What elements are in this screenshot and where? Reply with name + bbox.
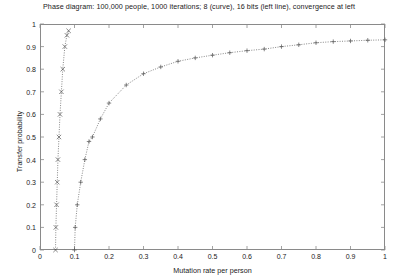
y-tick-label: 0 bbox=[32, 247, 36, 254]
data-point-marker bbox=[141, 72, 145, 76]
y-tick-label: 0.7 bbox=[26, 88, 36, 95]
chart-title: Phase diagram: 100,000 people, 1000 iter… bbox=[0, 2, 398, 11]
y-tick-label: 0.4 bbox=[26, 156, 36, 163]
data-point-marker bbox=[57, 135, 61, 139]
data-point-marker bbox=[348, 39, 352, 43]
y-tick-label: 1 bbox=[32, 21, 36, 28]
y-tick-label: 0.9 bbox=[26, 43, 36, 50]
x-axis-tick-labels: 00.10.20.30.40.50.60.70.80.91 bbox=[40, 253, 385, 265]
y-tick-label: 0.6 bbox=[26, 111, 36, 118]
y-tick-label: 0.5 bbox=[26, 134, 36, 141]
x-tick-label: 0 bbox=[38, 253, 42, 260]
data-point-marker bbox=[55, 180, 59, 184]
data-point-marker bbox=[159, 65, 163, 69]
data-point-marker bbox=[228, 51, 232, 55]
data-point-marker bbox=[279, 44, 283, 48]
x-tick-label: 0.4 bbox=[173, 253, 183, 260]
data-point-marker bbox=[75, 203, 79, 207]
data-point-marker bbox=[297, 43, 301, 47]
x-tick-label: 0.9 bbox=[346, 253, 356, 260]
y-axis-tick-labels: 00.10.20.30.40.50.60.70.80.91 bbox=[0, 24, 36, 250]
x-tick-label: 0.5 bbox=[208, 253, 218, 260]
data-point-marker bbox=[79, 180, 83, 184]
data-point-marker bbox=[72, 248, 76, 252]
plot-svg bbox=[40, 24, 385, 250]
plot-area bbox=[40, 24, 385, 250]
data-point-marker bbox=[73, 225, 77, 229]
data-point-marker bbox=[98, 117, 102, 121]
x-axis-label: Mutation rate per person bbox=[40, 266, 385, 275]
y-tick-label: 0.3 bbox=[26, 179, 36, 186]
data-point-marker bbox=[66, 29, 70, 33]
x-tick-label: 0.8 bbox=[311, 253, 321, 260]
y-tick-label: 0.1 bbox=[26, 224, 36, 231]
data-point-marker bbox=[87, 139, 91, 143]
data-series bbox=[53, 29, 71, 253]
y-tick-label: 0.2 bbox=[26, 201, 36, 208]
data-point-marker bbox=[245, 48, 249, 52]
x-tick-label: 0.7 bbox=[277, 253, 287, 260]
x-tick-label: 0.3 bbox=[139, 253, 149, 260]
data-point-marker bbox=[331, 39, 335, 43]
data-series bbox=[72, 38, 387, 253]
data-point-marker bbox=[53, 248, 57, 252]
data-point-marker bbox=[193, 56, 197, 60]
data-point-marker bbox=[314, 41, 318, 45]
data-point-marker bbox=[176, 59, 180, 63]
chart-figure: Phase diagram: 100,000 people, 1000 iter… bbox=[0, 0, 398, 280]
x-tick-label: 1 bbox=[383, 253, 387, 260]
data-point-marker bbox=[366, 38, 370, 42]
y-tick-label: 0.8 bbox=[26, 66, 36, 73]
x-tick-label: 0.2 bbox=[104, 253, 114, 260]
data-point-marker bbox=[262, 47, 266, 51]
data-point-marker bbox=[383, 38, 387, 42]
x-tick-label: 0.6 bbox=[242, 253, 252, 260]
data-point-marker bbox=[83, 157, 87, 161]
data-point-marker bbox=[210, 53, 214, 57]
x-tick-label: 0.1 bbox=[70, 253, 80, 260]
data-point-marker bbox=[107, 101, 111, 105]
